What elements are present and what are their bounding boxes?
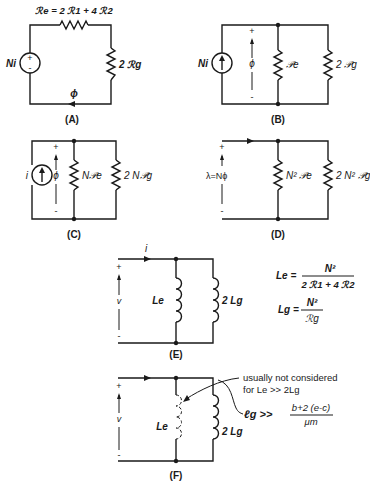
node-dot (72, 217, 76, 221)
resistor2-label: 2 𝒫g (335, 59, 357, 70)
node-dot (174, 376, 178, 380)
inductor2-label: 2 Lg (221, 426, 243, 437)
wire (118, 378, 213, 395)
shunt-resistor-label: 2 ℛg (118, 59, 141, 70)
resistor-re (60, 21, 88, 29)
note-line-2: for Le >> 2Lg (243, 384, 300, 395)
arrow-head-icon (219, 55, 225, 61)
wire (222, 190, 328, 219)
current-arrow-icon (144, 375, 151, 381)
flux-arrow-icon (68, 101, 75, 107)
node-dot (174, 257, 178, 261)
lg-numerator: N² (307, 297, 318, 308)
resistor2-label: 2 N² 𝒫g (335, 170, 370, 181)
source-label: Ni (6, 58, 16, 69)
current-arrow-icon (144, 256, 151, 262)
wire (118, 259, 213, 278)
panel-a: + - Ni ℛe = 2 ℛ1 + 4 ℛ2 2 ℛg ϕ (A) (6, 5, 141, 125)
note-line-1: usually not considered (243, 372, 338, 383)
arrow-head-icon (220, 154, 224, 160)
source-label: Ni (198, 58, 208, 69)
wire (118, 439, 213, 461)
plus-sign: + (116, 381, 121, 391)
resistor-n2pe (274, 160, 282, 190)
panel-e: i + v - Le 2 Lg (E) (116, 243, 242, 360)
plus-sign: + (249, 26, 254, 36)
inductor-2lg (213, 278, 219, 322)
node-dot (276, 102, 280, 106)
panel-d: + λ=Nϕ - N² 𝒫e 2 N² 𝒫g (D) (206, 138, 370, 240)
flux-label: λ=Nϕ (206, 171, 227, 181)
minus-sign: - (118, 331, 121, 341)
series-resistor-label: ℛe = 2 ℛ1 + 4 ℛ2 (35, 5, 113, 16)
condition-lhs: ℓg >> (244, 408, 273, 420)
minus-sign: - (55, 206, 58, 216)
source-minus: - (29, 63, 32, 73)
arrow-head-icon (250, 38, 254, 44)
resistor-2npg (112, 160, 120, 190)
resistor1-label: N² 𝒫e (286, 170, 312, 181)
panel-c: i + ϕ - N𝒫e 2 N𝒫g (C) (26, 139, 153, 240)
source-plus: + (27, 53, 32, 63)
minus-sign: - (251, 92, 254, 102)
node-dot (174, 459, 178, 463)
node-dot (276, 139, 280, 143)
condition-denominator: μm (303, 416, 317, 427)
resistor-2rg (107, 48, 115, 80)
node-dot (276, 23, 280, 27)
caption: (F) (170, 470, 183, 481)
plus-sign: + (219, 142, 224, 152)
le-denominator: 2 ℛ1 + 4 ℛ2 (300, 279, 355, 290)
inductor-2lg (213, 395, 219, 439)
wire (222, 73, 328, 104)
node-dot (72, 139, 76, 143)
lg-lhs: Lg = (278, 304, 299, 315)
arrow-head-icon (54, 154, 58, 160)
le-lhs: Le = (276, 270, 296, 281)
inductance-equations: Le = N² 2 ℛ1 + 4 ℛ2 Lg = N² ℛg (276, 263, 355, 324)
current-arrow-icon (247, 138, 254, 144)
plus-sign: + (116, 262, 121, 272)
caption: (B) (271, 114, 285, 125)
magnetic-circuit-figure: + - Ni ℛe = 2 ℛ1 + 4 ℛ2 2 ℛg ϕ (A) Ni + … (0, 0, 370, 489)
caption: (C) (67, 229, 81, 240)
current-label: i (145, 243, 148, 254)
arrow-head-icon (117, 393, 121, 399)
wire (30, 25, 60, 53)
wire (222, 141, 328, 160)
inductor-le-dashed (176, 395, 182, 439)
wire (118, 322, 213, 343)
wire (222, 25, 328, 53)
caption: (E) (169, 349, 182, 360)
node-dot (276, 217, 280, 221)
annotation-bracket (218, 380, 243, 414)
inductor1-label: Le (152, 295, 164, 306)
voltage-label: v (117, 296, 122, 306)
inductor-le (176, 278, 182, 322)
arrow-head-icon (39, 167, 45, 173)
wire (88, 25, 111, 48)
arrow-head-icon (117, 274, 121, 280)
caption: (D) (271, 229, 285, 240)
source-label: i (26, 170, 29, 181)
minus-sign: - (221, 206, 224, 216)
inductor1-label: Le (156, 421, 168, 432)
resistor-2pg (324, 50, 332, 80)
resistor2-label: 2 N𝒫g (123, 170, 153, 181)
flux-label: ϕ (70, 88, 78, 99)
panel-b: Ni + ϕ - 𝒫e 2 𝒫g (B) (198, 23, 357, 125)
condition-numerator: b+2 (e-c) (292, 402, 330, 413)
resistor1-label: N𝒫e (82, 170, 102, 181)
panel-f: + v - Le 2 Lg usually not considered for… (116, 372, 337, 481)
voltage-label: v (117, 414, 122, 424)
lg-denominator: ℛg (305, 313, 319, 324)
inductor2-label: 2 Lg (221, 295, 243, 306)
resistor-pe (274, 50, 282, 80)
node-dot (174, 341, 178, 345)
pointer-arrow-icon (183, 395, 190, 402)
minus-sign: - (118, 450, 121, 460)
resistor1-label: 𝒫e (286, 59, 299, 70)
le-numerator: N² (325, 263, 336, 274)
flux-label: ϕ (249, 58, 255, 69)
resistor-npe (70, 160, 78, 190)
